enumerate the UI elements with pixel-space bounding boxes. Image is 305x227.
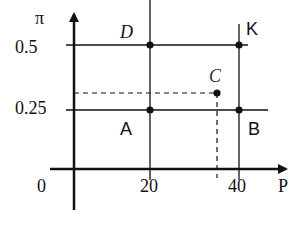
point-a bbox=[146, 106, 153, 113]
x-tick-20: 20 bbox=[140, 176, 158, 197]
point-label-b: B bbox=[248, 119, 260, 140]
y-axis-label: π bbox=[35, 8, 44, 29]
point-c bbox=[213, 89, 220, 96]
origin-label: 0 bbox=[37, 176, 46, 197]
point-label-a: A bbox=[120, 119, 132, 140]
point-label-k: K bbox=[246, 19, 258, 40]
point-b bbox=[235, 106, 242, 113]
x-axis-label: P bbox=[278, 176, 288, 197]
x-tick-40: 40 bbox=[228, 176, 246, 197]
point-label-d: D bbox=[120, 22, 133, 43]
point-label-c: C bbox=[209, 66, 221, 87]
point-k bbox=[235, 41, 242, 48]
diagram: π P 0 0.5 0.25 20 40 D K C A B bbox=[0, 0, 305, 227]
y-tick-0.5: 0.5 bbox=[15, 37, 38, 58]
point-d bbox=[146, 41, 153, 48]
y-tick-0.25: 0.25 bbox=[15, 98, 47, 119]
